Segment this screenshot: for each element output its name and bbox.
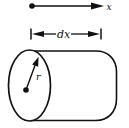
cylinder-diagram: x dx r <box>0 0 129 128</box>
diagram-canvas: x dx r <box>0 0 129 128</box>
dx-right-arrowhead <box>88 31 100 37</box>
x-axis: x <box>29 2 111 12</box>
dx-left-arrowhead <box>32 31 44 37</box>
x-axis-arrowhead <box>91 3 104 10</box>
cylinder: r <box>9 50 117 121</box>
dx-label: dx <box>57 28 71 41</box>
cylinder-face <box>9 50 51 121</box>
dx-dimension: dx <box>31 28 101 41</box>
x-axis-label: x <box>107 2 112 12</box>
